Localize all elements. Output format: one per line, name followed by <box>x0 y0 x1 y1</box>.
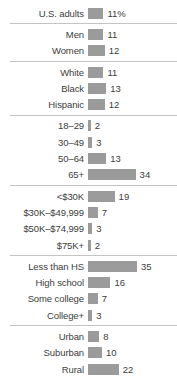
row-bar <box>88 137 92 148</box>
chart-row: Urban8 <box>0 328 177 344</box>
chart-row: Black13 <box>0 80 177 96</box>
chart-group-race-ethnicity: White11Black13Hispanic12 <box>0 61 177 113</box>
row-bar <box>88 29 103 40</box>
row-value: 2 <box>95 120 100 131</box>
row-label: $30K–$49,999 <box>0 207 88 218</box>
row-value: 3 <box>96 137 101 148</box>
chart-row: <$30K19 <box>0 188 177 204</box>
row-value: 12 <box>109 99 120 110</box>
row-label: Urban <box>0 331 88 342</box>
chart-row: Rural22 <box>0 361 177 377</box>
row-bar <box>88 67 103 78</box>
chart-group-gender: Men11Women12 <box>0 23 177 59</box>
row-bar <box>88 223 92 234</box>
row-value: 34 <box>140 169 151 180</box>
row-label: Black <box>0 83 88 94</box>
row-bar <box>88 277 110 288</box>
row-bar <box>88 120 91 131</box>
row-bar <box>88 169 136 180</box>
row-label: $50K–$74,999 <box>0 223 88 234</box>
row-bar <box>88 153 106 164</box>
chart-row: High school16 <box>0 274 177 290</box>
chart-row: Suburban10 <box>0 345 177 361</box>
row-value: 2 <box>95 240 100 251</box>
row-value: 19 <box>119 191 130 202</box>
row-bar <box>88 310 92 321</box>
row-label: 50–64 <box>0 153 88 164</box>
chart-row: Women12 <box>0 43 177 59</box>
row-label: High school <box>0 277 88 288</box>
row-label: 30–49 <box>0 137 88 148</box>
row-value: 13 <box>110 83 121 94</box>
row-label: $75K+ <box>0 240 88 251</box>
chart-row: 65+34 <box>0 167 177 183</box>
row-value: 35 <box>141 261 152 272</box>
row-bar <box>88 207 98 218</box>
chart-row: White11 <box>0 64 177 80</box>
row-bar <box>88 191 115 202</box>
row-value: 13 <box>110 153 121 164</box>
row-label: 65+ <box>0 169 88 180</box>
row-value: 12 <box>109 45 120 56</box>
row-value: 7 <box>102 207 107 218</box>
row-label: Some college <box>0 293 88 304</box>
row-value: 11 <box>107 67 117 78</box>
row-label: Women <box>0 45 88 56</box>
chart-group-community-type: Urban8Suburban10Rural22 <box>0 325 177 377</box>
chart-row: 18–292 <box>0 118 177 134</box>
row-value: 8 <box>103 331 108 342</box>
chart-row: Men11 <box>0 26 177 42</box>
row-value: 11 <box>107 29 117 40</box>
row-bar <box>88 364 119 375</box>
row-label: White <box>0 67 88 78</box>
row-bar <box>88 240 91 251</box>
row-label: College+ <box>0 310 88 321</box>
row-value: 7 <box>102 293 107 304</box>
row-label: Men <box>0 29 88 40</box>
chart-row: $75K+2 <box>0 237 177 253</box>
row-value: 16 <box>114 277 125 288</box>
row-bar <box>88 99 105 110</box>
chart-row: Hispanic12 <box>0 96 177 112</box>
chart-group-total: U.S. adults11% <box>0 5 177 21</box>
row-bar <box>88 293 98 304</box>
row-value: 11% <box>107 8 125 19</box>
row-bar <box>88 83 106 94</box>
bar-chart: U.S. adults11%Men11Women12White11Black13… <box>0 0 177 383</box>
chart-row: College+3 <box>0 307 177 323</box>
row-label: U.S. adults <box>0 8 88 19</box>
chart-row: 30–493 <box>0 134 177 150</box>
chart-row: Less than HS35 <box>0 258 177 274</box>
row-label: Suburban <box>0 347 88 358</box>
chart-group-age: 18–29230–49350–641365+34 <box>0 115 177 183</box>
row-value: 3 <box>96 223 101 234</box>
chart-group-income: <$30K19$30K–$49,9997$50K–$74,9993$75K+2 <box>0 185 177 253</box>
chart-row: $50K–$74,9993 <box>0 221 177 237</box>
row-bar <box>88 331 99 342</box>
row-bar <box>88 45 105 56</box>
chart-row: $30K–$49,9997 <box>0 204 177 220</box>
row-label: 18–29 <box>0 120 88 131</box>
row-label: Less than HS <box>0 261 88 272</box>
chart-row: U.S. adults11% <box>0 5 177 21</box>
row-bar <box>88 8 103 19</box>
row-bar <box>88 347 102 358</box>
row-value: 3 <box>96 310 101 321</box>
row-value: 22 <box>123 364 134 375</box>
row-bar <box>88 261 137 272</box>
row-value: 10 <box>106 347 117 358</box>
chart-group-education: Less than HS35High school16Some college7… <box>0 255 177 323</box>
row-label: Hispanic <box>0 99 88 110</box>
chart-row: 50–6413 <box>0 150 177 166</box>
chart-row: Some college7 <box>0 291 177 307</box>
row-label: <$30K <box>0 191 88 202</box>
row-label: Rural <box>0 364 88 375</box>
